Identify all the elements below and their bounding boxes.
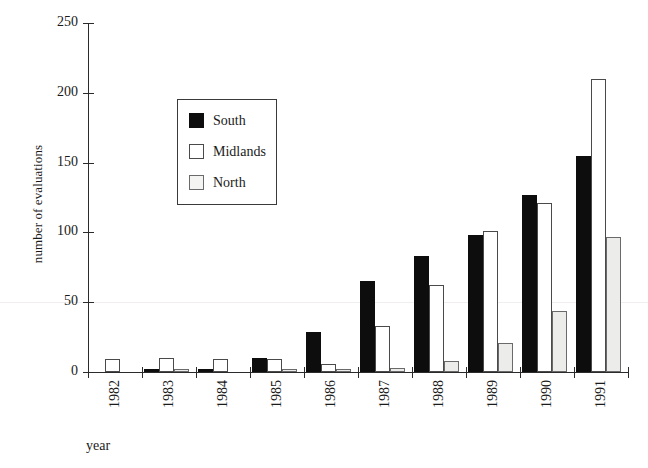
x-tick-label: 1986 bbox=[323, 368, 339, 420]
x-tick-label: 1988 bbox=[431, 368, 447, 420]
bar-midlands-1990 bbox=[537, 203, 552, 372]
legend-item-midlands: Midlands bbox=[189, 143, 266, 160]
x-tick-label: 1982 bbox=[107, 368, 123, 420]
x-tick bbox=[358, 367, 359, 378]
plot-area bbox=[88, 23, 628, 372]
legend-swatch-midlands-icon bbox=[189, 144, 204, 159]
x-tick bbox=[466, 367, 467, 378]
bar-midlands-1989 bbox=[483, 231, 498, 372]
legend-label-north: North bbox=[213, 176, 246, 190]
bar-south-1987 bbox=[360, 281, 375, 372]
bar-south-1985 bbox=[252, 358, 267, 372]
legend-item-south: South bbox=[189, 112, 246, 129]
x-tick bbox=[196, 367, 197, 378]
x-tick-label: 1984 bbox=[215, 368, 231, 420]
y-tick-label: 200 bbox=[34, 85, 78, 99]
x-tick bbox=[88, 367, 89, 378]
bar-midlands-1987 bbox=[375, 326, 390, 372]
legend-label-south: South bbox=[213, 114, 246, 128]
bar-south-1986 bbox=[306, 332, 321, 372]
x-tick bbox=[628, 367, 629, 378]
bar-south-1991 bbox=[576, 156, 591, 372]
x-tick-label: 1987 bbox=[377, 368, 393, 420]
bar-north-1991 bbox=[606, 237, 621, 372]
x-tick bbox=[142, 367, 143, 378]
bar-midlands-1988 bbox=[429, 285, 444, 372]
legend: South Midlands North bbox=[177, 99, 277, 205]
y-tick-label: 0 bbox=[34, 364, 78, 378]
y-tick-label: 100 bbox=[34, 224, 78, 238]
x-tick bbox=[412, 367, 413, 378]
x-tick-label: 1983 bbox=[161, 368, 177, 420]
legend-swatch-south-icon bbox=[189, 113, 204, 128]
y-tick-label: 250 bbox=[34, 15, 78, 29]
x-tick bbox=[250, 367, 251, 378]
bar-chart: number of evaluations 050100150200250 19… bbox=[0, 0, 648, 468]
legend-item-north: North bbox=[189, 174, 246, 191]
bar-north-1990 bbox=[552, 311, 567, 372]
x-tick-label: 1985 bbox=[269, 368, 285, 420]
x-tick bbox=[574, 367, 575, 378]
legend-label-midlands: Midlands bbox=[213, 145, 266, 159]
x-tick bbox=[520, 367, 521, 378]
y-tick-label: 150 bbox=[34, 155, 78, 169]
x-axis-title: year bbox=[86, 438, 110, 454]
x-tick bbox=[304, 367, 305, 378]
x-tick-label: 1991 bbox=[593, 368, 609, 420]
bar-south-1989 bbox=[468, 235, 483, 372]
x-tick-label: 1990 bbox=[539, 368, 555, 420]
bar-south-1988 bbox=[414, 256, 429, 372]
y-tick-label: 50 bbox=[34, 294, 78, 308]
legend-swatch-north-icon bbox=[189, 175, 204, 190]
bar-midlands-1991 bbox=[591, 79, 606, 372]
y-axis-title: number of evaluations bbox=[30, 104, 46, 304]
x-tick-label: 1989 bbox=[485, 368, 501, 420]
bar-south-1990 bbox=[522, 195, 537, 372]
